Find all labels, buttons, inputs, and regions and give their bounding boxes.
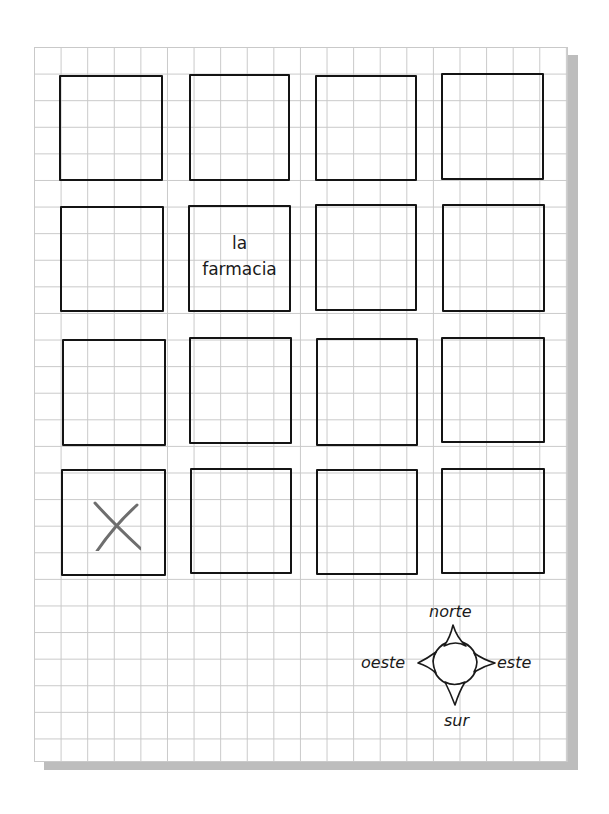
city-block-r3c4: [441, 337, 545, 443]
compass-rose-icon: [410, 620, 502, 712]
city-block-r1c3: [315, 75, 417, 181]
city-block-r2c4: [442, 204, 545, 312]
city-block-r3c3: [316, 338, 418, 446]
compass-south-label: sur: [444, 712, 469, 730]
x-marker-icon: [93, 501, 141, 551]
pharmacy-label-line2: farmacia: [190, 258, 289, 280]
city-block-r4c3: [316, 469, 418, 575]
city-block-r1c1: [59, 75, 163, 181]
city-block-r3c1: [62, 339, 166, 446]
city-block-r4c4: [441, 468, 545, 574]
city-block-r2c3: [315, 204, 417, 311]
compass-west-label: oeste: [361, 654, 405, 672]
city-block-r4c1-start: [61, 469, 166, 576]
city-block-r2c1: [60, 206, 164, 312]
city-block-pharmacy: la farmacia: [188, 205, 291, 312]
city-block-r1c2: [189, 74, 290, 181]
city-block-r1c4: [441, 73, 544, 180]
city-block-r3c2: [189, 337, 292, 444]
city-block-r4c2: [190, 468, 292, 574]
compass-east-label: este: [497, 654, 531, 672]
pharmacy-label-line1: la: [190, 232, 289, 254]
compass-north-label: norte: [429, 603, 472, 621]
